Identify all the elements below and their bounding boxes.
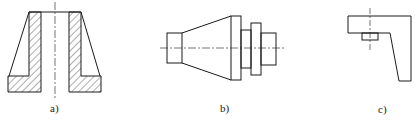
figure-a-label: a) xyxy=(50,102,59,115)
figure-c-bracket xyxy=(348,8,411,81)
figure-c-label: c) xyxy=(378,103,387,116)
figure-b-label: b) xyxy=(220,102,230,115)
drawing-svg: a) b) c) xyxy=(0,0,415,122)
figure-a-bushing-section xyxy=(8,2,101,98)
figure-b-stepped-shaft xyxy=(160,16,284,80)
technical-drawing-canvas: a) b) c) xyxy=(0,0,415,122)
